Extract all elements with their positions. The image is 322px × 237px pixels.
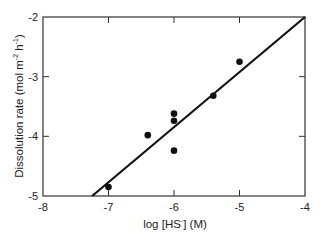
y-tick-label: -4 xyxy=(28,130,38,142)
regression-line xyxy=(92,17,305,196)
y-axis-label: Dissolution rate (mol m-2 h-1) xyxy=(12,34,25,178)
data-point xyxy=(171,147,178,154)
fit-line xyxy=(92,17,305,196)
axis-ticks: -8-7-6-5-4-5-4-3-2 xyxy=(28,11,310,213)
x-axis-label: log [HS-] (M) xyxy=(143,217,207,230)
data-point xyxy=(105,184,112,191)
x-tick-label: -8 xyxy=(38,201,48,213)
x-tick-label: -6 xyxy=(169,201,179,213)
plot-frame xyxy=(43,17,305,196)
y-tick-label: -3 xyxy=(28,71,38,83)
data-point xyxy=(210,92,217,99)
x-tick-label: -4 xyxy=(300,201,310,213)
data-point xyxy=(236,58,243,65)
x-tick-label: -5 xyxy=(235,201,245,213)
data-point xyxy=(171,110,178,117)
data-point xyxy=(145,132,152,139)
x-tick-label: -7 xyxy=(104,201,114,213)
y-tick-label: -2 xyxy=(28,11,38,23)
scatter-chart: -8-7-6-5-4-5-4-3-2 log [HS-] (M) Dissolu… xyxy=(0,0,322,237)
data-point xyxy=(171,118,178,125)
data-points xyxy=(105,58,243,190)
plot-border xyxy=(43,17,305,196)
y-tick-label: -5 xyxy=(28,190,38,202)
